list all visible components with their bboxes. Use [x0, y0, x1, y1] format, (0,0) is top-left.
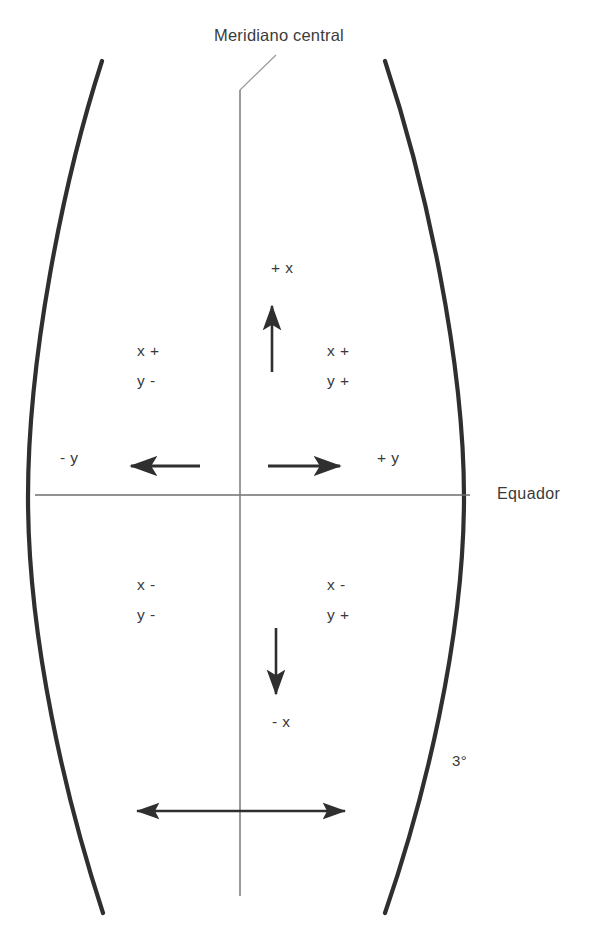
quadrant-lower-right-y: y +: [327, 600, 350, 630]
diagram-canvas: Meridiano central + x - x - y + y Equado…: [0, 0, 602, 934]
axis-label-plus-x: + x: [271, 260, 293, 276]
title-leader-line: [240, 55, 276, 90]
quadrant-lower-left: x - y -: [137, 570, 156, 630]
quadrant-upper-right: x + y +: [327, 336, 350, 396]
quadrant-upper-left-x: x +: [137, 336, 160, 366]
quadrant-lower-left-x: x -: [137, 570, 156, 600]
axis-label-minus-y: - y: [60, 450, 78, 466]
zone-boundary-west: [28, 61, 103, 913]
zone-boundary-east: [385, 61, 464, 913]
quadrant-lower-left-y: y -: [137, 600, 156, 630]
quadrant-upper-left: x + y -: [137, 336, 160, 396]
axis-label-plus-y: + y: [377, 450, 399, 466]
quadrant-lower-right-x: x -: [327, 570, 350, 600]
quadrant-upper-left-y: y -: [137, 366, 160, 396]
utm-zone-diagram: [0, 0, 602, 934]
axis-label-minus-x: - x: [272, 714, 290, 730]
equator-label: Equador: [497, 486, 560, 502]
quadrant-upper-right-x: x +: [327, 336, 350, 366]
central-meridian-label: Meridiano central: [214, 27, 344, 44]
quadrant-upper-right-y: y +: [327, 366, 350, 396]
zone-width-label: 3°: [452, 753, 467, 768]
quadrant-lower-right: x - y +: [327, 570, 350, 630]
